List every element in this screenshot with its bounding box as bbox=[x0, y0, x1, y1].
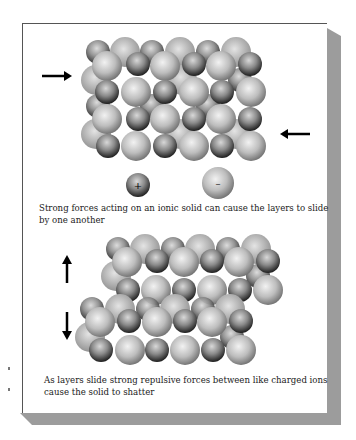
caption-top: Strong forces acting on an ionic solid c… bbox=[39, 202, 329, 226]
right-arrow-icon bbox=[42, 71, 72, 81]
anion-legend: – bbox=[202, 167, 234, 199]
cation-legend: + bbox=[126, 173, 150, 197]
cation-symbol: + bbox=[134, 180, 142, 191]
down-arrow-icon bbox=[62, 312, 72, 340]
caption-bottom: As layers slide strong repulsive forces … bbox=[44, 374, 334, 398]
up-arrow-icon bbox=[62, 255, 72, 283]
anion-symbol: – bbox=[216, 178, 221, 189]
left-arrow-icon bbox=[280, 129, 310, 139]
